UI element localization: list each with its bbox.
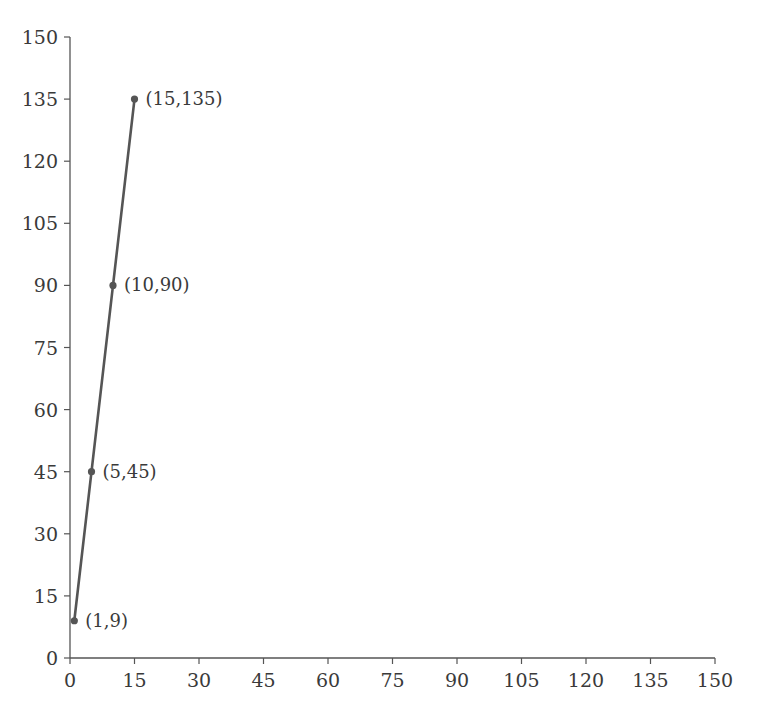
series-line xyxy=(71,96,138,625)
data-line xyxy=(74,99,134,621)
x-tick-label: 60 xyxy=(316,669,340,691)
y-tick-label: 30 xyxy=(34,523,58,545)
x-tick-label: 105 xyxy=(503,669,539,691)
y-tick-label: 120 xyxy=(22,150,58,172)
x-tick-label: 120 xyxy=(568,669,604,691)
axes: 0153045607590105120135150015304560759010… xyxy=(22,26,733,691)
y-tick-label: 0 xyxy=(46,647,58,669)
point-label: (15,135) xyxy=(146,88,223,109)
y-tick-label: 150 xyxy=(22,26,58,48)
y-tick-label: 15 xyxy=(34,585,58,607)
y-tick-label: 105 xyxy=(22,212,58,234)
y-tick-label: 45 xyxy=(34,461,58,483)
x-tick-label: 45 xyxy=(251,669,275,691)
data-point xyxy=(71,617,78,624)
y-tick-label: 90 xyxy=(34,274,58,296)
point-label: (10,90) xyxy=(124,274,190,295)
data-point xyxy=(88,468,95,475)
x-tick-label: 75 xyxy=(380,669,404,691)
y-tick-label: 75 xyxy=(34,337,58,359)
y-tick-label: 60 xyxy=(34,399,58,421)
data-point xyxy=(131,96,138,103)
x-tick-label: 30 xyxy=(187,669,211,691)
x-tick-label: 150 xyxy=(697,669,733,691)
point-labels: (1,9)(5,45)(10,90)(15,135) xyxy=(85,88,222,631)
x-tick-label: 0 xyxy=(64,669,76,691)
x-tick-label: 90 xyxy=(445,669,469,691)
line-chart: 0153045607590105120135150015304560759010… xyxy=(0,0,757,725)
point-label: (5,45) xyxy=(103,461,157,482)
x-tick-label: 15 xyxy=(122,669,146,691)
chart-canvas: 0153045607590105120135150015304560759010… xyxy=(0,0,757,725)
data-point xyxy=(109,282,116,289)
point-label: (1,9) xyxy=(85,610,128,631)
x-tick-label: 135 xyxy=(632,669,668,691)
y-tick-label: 135 xyxy=(22,88,58,110)
